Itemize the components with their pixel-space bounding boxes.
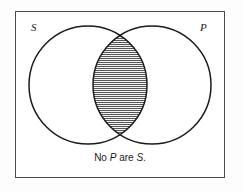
set-label-p: P bbox=[200, 21, 207, 33]
caption-prefix: No bbox=[94, 152, 110, 163]
diagram-caption: No P are S. bbox=[15, 152, 225, 163]
caption-suffix: . bbox=[143, 152, 146, 163]
set-label-s: S bbox=[31, 21, 37, 33]
venn-diagram-figure: S P No P are S. bbox=[0, 0, 243, 192]
caption-middle: are bbox=[116, 152, 136, 163]
